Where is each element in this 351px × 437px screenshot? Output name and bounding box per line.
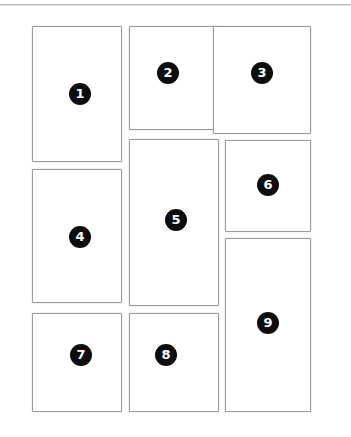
panel-number-badge-8: 8: [155, 344, 177, 366]
panel-number-badge-1: 1: [69, 83, 91, 105]
panel-number-badge-6: 6: [257, 174, 279, 196]
layout-canvas: 123456789: [0, 0, 351, 437]
panel-number-badge-9: 9: [257, 312, 279, 334]
top-divider-rule: [0, 4, 351, 5]
panel-number-badge-7: 7: [70, 344, 92, 366]
panel-number-badge-4: 4: [69, 226, 91, 248]
panel-number-badge-5: 5: [165, 209, 187, 231]
panel-number-badge-2: 2: [157, 62, 179, 84]
panel-number-badge-3: 3: [251, 62, 273, 84]
